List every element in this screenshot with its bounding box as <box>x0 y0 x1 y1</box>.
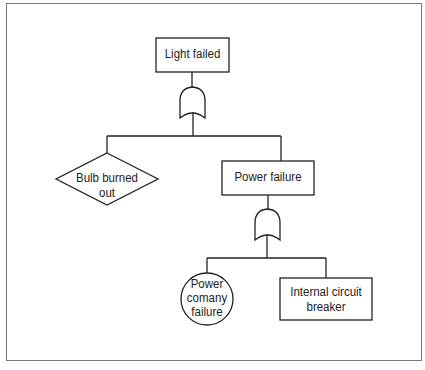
power-failure-label: Power failure <box>226 170 311 185</box>
power-company-line3: failure <box>179 305 234 319</box>
top-event-label: Light failed <box>159 47 226 62</box>
breaker-label-line1: Internal circuit <box>284 285 369 300</box>
power-company-line1: Power <box>179 277 234 291</box>
bulb-label-line2: out <box>66 186 149 201</box>
breaker-label: Internal circuit breaker <box>284 285 369 315</box>
bulb-label: Bulb burned out <box>66 171 149 201</box>
bulb-label-line1: Bulb burned <box>66 171 149 186</box>
breaker-label-line2: breaker <box>284 300 369 315</box>
power-company-label: Power comany failure <box>179 277 234 319</box>
power-company-line2: comany <box>179 291 234 305</box>
